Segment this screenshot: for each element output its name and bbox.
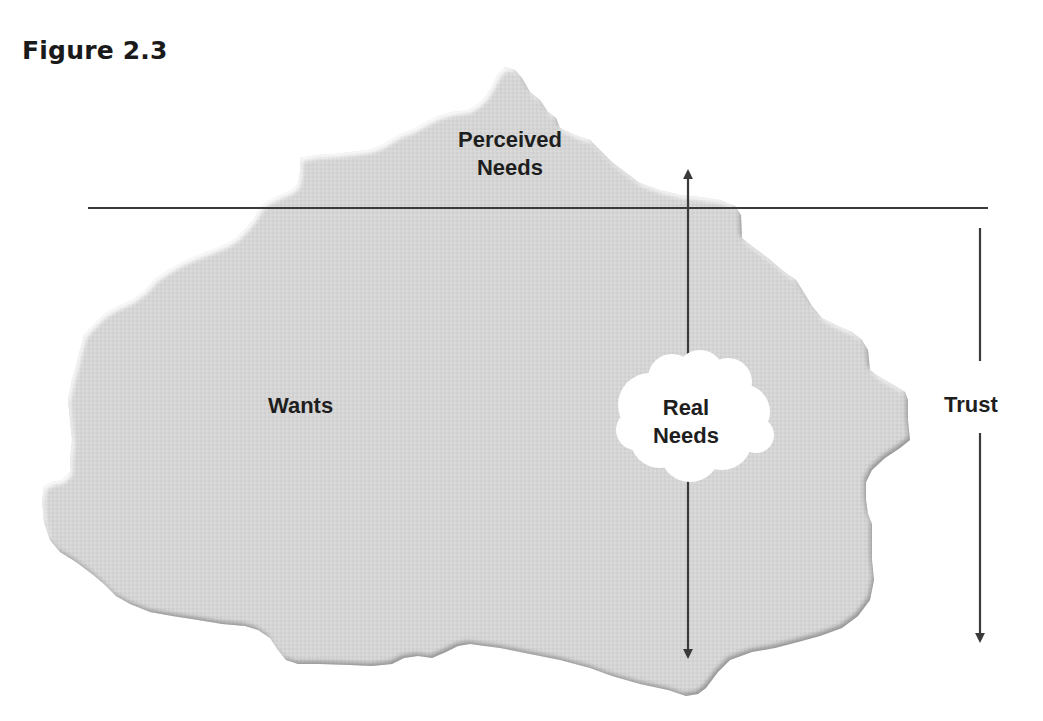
iceberg-diagram xyxy=(0,0,1043,721)
trust-label: Trust xyxy=(944,391,1014,419)
perceived-needs-line-1: Perceived xyxy=(430,126,590,154)
real-needs-line-2: Needs xyxy=(631,422,741,450)
real-needs-line-1: Real xyxy=(631,394,741,422)
wants-label: Wants xyxy=(268,392,368,420)
real-needs-label: Real Needs xyxy=(631,394,741,449)
perceived-needs-line-2: Needs xyxy=(430,154,590,182)
perceived-needs-label: Perceived Needs xyxy=(430,126,590,181)
